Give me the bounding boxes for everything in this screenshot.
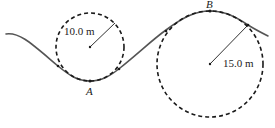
crest-center-dot	[209, 63, 211, 65]
tangent-dot	[247, 24, 250, 27]
point-a-label: A	[85, 85, 93, 97]
tangent-dot	[118, 68, 121, 71]
point-a-dot	[88, 79, 91, 82]
tangent-dot	[165, 30, 168, 33]
track-curve	[6, 11, 268, 81]
tangent-dot	[57, 65, 60, 68]
valley-center-dot	[89, 46, 91, 48]
valley-radius-label: 10.0 m	[64, 25, 95, 37]
track-diagram: 10.0 m 15.0 m A B	[0, 0, 275, 128]
point-b-label: B	[206, 0, 213, 10]
crest-radius-label: 15.0 m	[223, 57, 254, 69]
